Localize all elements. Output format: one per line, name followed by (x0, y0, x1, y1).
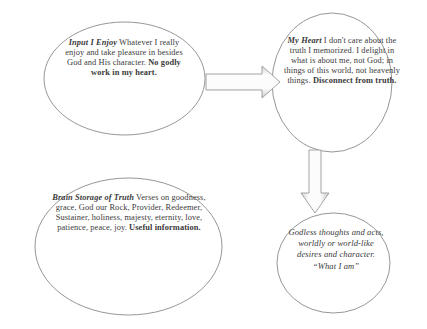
node-body-godless-thoughts: Godless thoughts and acts, worldly or wo… (288, 227, 383, 271)
node-label-input-i-enjoy: Input I Enjoy Whatever I really enjoy an… (62, 38, 186, 78)
node-lead-my-heart: My Heart (288, 36, 322, 45)
arrow-input-to-heart[interactable] (206, 66, 280, 98)
arrow-heart-to-godless[interactable] (301, 150, 329, 213)
node-label-my-heart: My Heart I don't care about the truth I … (283, 36, 401, 86)
node-label-brain-storage-of-truth: Brain Storage of Truth Verses on goodnes… (50, 193, 208, 233)
diagram-canvas: Input I Enjoy Whatever I really enjoy an… (0, 0, 427, 329)
node-lead-brain-storage-of-truth: Brain Storage of Truth (52, 193, 134, 202)
node-emphasis-brain-storage-of-truth: Useful information. (129, 223, 201, 232)
node-lead-input-i-enjoy: Input I Enjoy (69, 38, 117, 47)
node-emphasis-my-heart: Disconnect from truth. (313, 76, 397, 85)
node-label-godless-thoughts: Godless thoughts and acts, worldly or wo… (288, 227, 384, 272)
